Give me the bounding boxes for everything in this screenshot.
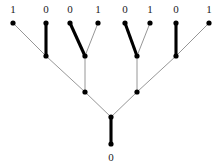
node-label-leaf-6: 1 — [147, 3, 153, 15]
edge-leaf3-innerB — [70, 23, 85, 56]
tree-diagram-svg: 100101010 — [0, 0, 221, 168]
tree-node-inner-d — [173, 53, 178, 58]
tree-node-inner-a — [43, 53, 48, 58]
tree-node-leaf-5 — [122, 20, 127, 25]
edge-innerA-midLeft — [46, 56, 85, 92]
node-label-leaf-7: 0 — [173, 3, 179, 15]
edge-leaf6-innerC — [137, 23, 150, 56]
node-label-leaf-5: 0 — [122, 3, 128, 15]
tree-node-mid-left — [82, 89, 87, 94]
tree-node-leaf-7 — [173, 20, 178, 25]
edges-layer — [13, 23, 209, 144]
tree-node-leaf-4 — [95, 20, 100, 25]
edge-leaf5-innerC — [125, 23, 137, 56]
node-label-leaf-2: 0 — [43, 3, 49, 15]
tree-node-leaf-3 — [67, 20, 72, 25]
tree-node-root — [108, 114, 113, 119]
tree-node-inner-b — [82, 53, 87, 58]
edge-leaf8-innerD — [176, 23, 209, 56]
tree-node-leaf-2 — [43, 20, 48, 25]
node-label-leaf-1: 1 — [10, 3, 16, 15]
tree-node-leaf-8 — [206, 20, 211, 25]
edge-midRight-root — [111, 92, 137, 117]
edge-midLeft-root — [85, 92, 111, 117]
node-label-leaf-3: 0 — [67, 3, 73, 15]
tree-node-inner-c — [134, 53, 139, 58]
edge-innerD-midRight — [137, 56, 176, 92]
tree-node-leaf-1 — [10, 20, 15, 25]
node-label-bottom: 0 — [108, 151, 114, 163]
tree-figure: 100101010 — [0, 0, 221, 168]
edge-leaf1-innerA — [13, 23, 46, 56]
tree-node-bottom — [108, 141, 113, 146]
node-label-leaf-8: 1 — [206, 3, 212, 15]
tree-node-leaf-6 — [147, 20, 152, 25]
tree-node-mid-right — [134, 89, 139, 94]
node-label-leaf-4: 1 — [95, 3, 101, 15]
edge-leaf4-innerB — [85, 23, 98, 56]
